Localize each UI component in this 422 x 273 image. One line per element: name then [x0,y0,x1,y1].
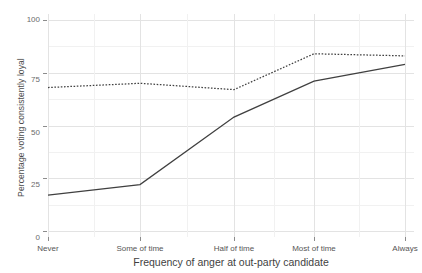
y-axis-tick-labels: 100 75 50 25 0 [14,0,40,273]
y-tick-label-75: 75 [14,76,40,84]
x-axis-title: Frequency of anger at out-party candidat… [48,256,414,268]
y-tick-label-0: 0 [14,234,40,242]
line-chart: Percentage voting consistently loyal 100… [0,0,422,273]
x-tick-label-half-of-time: Half of time [194,244,274,253]
x-tick-mark-most-of-time [314,237,315,241]
y-tick-mark-50 [43,126,47,127]
y-tick-mark-0 [43,231,47,232]
series-dotted-line [48,54,405,90]
x-tick-label-most-of-time: Most of time [274,244,354,253]
y-tick-mark-25 [43,178,47,179]
y-tick-label-50: 50 [14,129,40,137]
x-tick-mark-always [405,237,406,241]
y-tick-mark-100 [43,20,47,21]
x-tick-label-some-of-time: Some of time [100,244,180,253]
y-tick-mark-75 [43,73,47,74]
x-tick-label-never: Never [8,244,88,253]
series-solid-line [48,64,405,195]
plot-area [48,14,414,237]
x-tick-mark-never [48,237,49,241]
x-tick-mark-half-of-time [234,237,235,241]
x-tick-label-always: Always [365,244,422,253]
x-tick-mark-some-of-time [140,237,141,241]
y-tick-label-100: 100 [14,16,40,24]
y-tick-label-25: 25 [14,181,40,189]
series-layer [48,14,414,237]
